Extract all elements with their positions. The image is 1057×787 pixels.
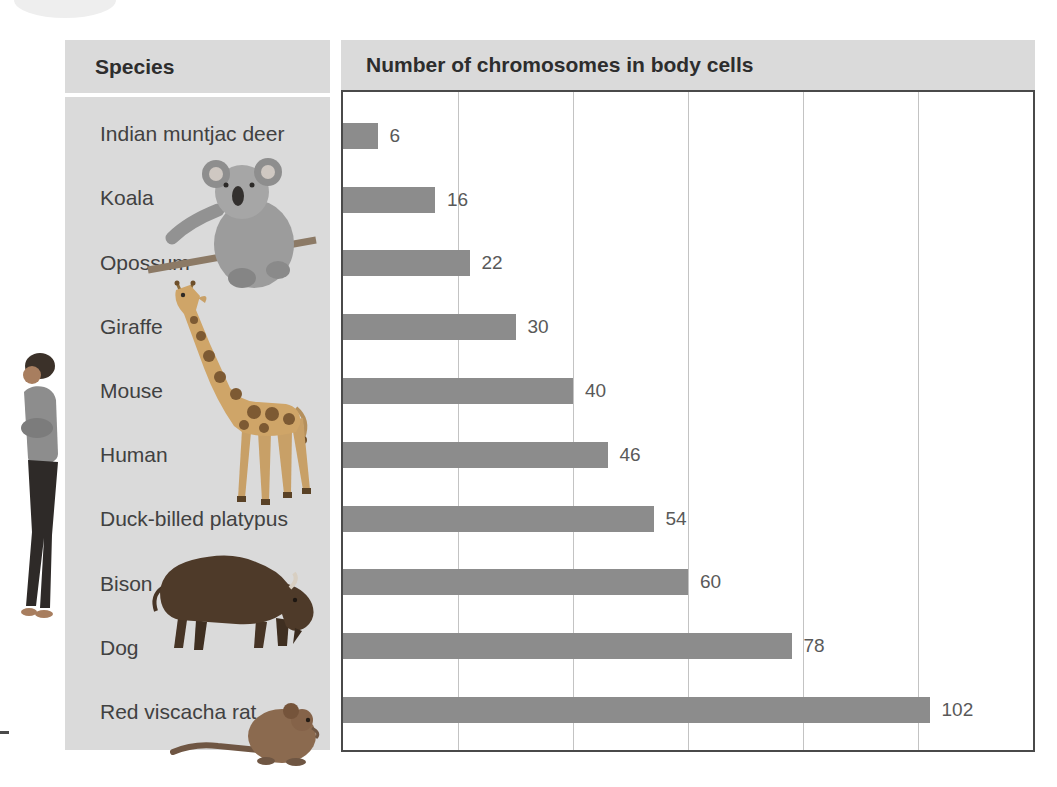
bar-row-koala: 16 [343,168,1033,232]
species-label-human: Human [65,423,330,487]
species-label-dog: Dog [65,616,330,680]
bar-row-indian-muntjac-deer: 6 [343,104,1033,168]
bar-opossum [343,250,470,276]
bar-value-human: 46 [620,444,641,466]
bar-bison [343,569,688,595]
species-label-mouse: Mouse [65,359,330,423]
bar-row-red-viscacha-rat: 102 [343,678,1033,742]
chart-title: Number of chromosomes in body cells [341,40,1035,90]
bar-row-giraffe: 30 [343,295,1033,359]
species-column: Species Indian muntjac deerKoalaOpossumG… [65,40,330,750]
bar-dog [343,633,792,659]
bar-row-opossum: 22 [343,232,1033,296]
species-label-opossum: Opossum [65,230,330,294]
bar-indian-muntjac-deer [343,123,378,149]
chart-column: Number of chromosomes in body cells 6162… [341,40,1035,752]
bar-rows: 61622304046546078102 [343,104,1033,742]
species-label-indian-muntjac-deer: Indian muntjac deer [65,102,330,166]
bar-human [343,442,608,468]
figure-page: Species Indian muntjac deerKoalaOpossumG… [0,0,1057,787]
bar-value-bison: 60 [700,571,721,593]
bar-row-dog: 78 [343,614,1033,678]
species-label-duck-billed-platypus: Duck-billed platypus [65,487,330,551]
bar-value-dog: 78 [804,635,825,657]
bar-mouse [343,378,573,404]
page-corner-decoration [14,0,116,18]
bar-row-bison: 60 [343,551,1033,615]
species-label-bison: Bison [65,551,330,615]
species-header: Species [65,40,330,93]
bar-value-mouse: 40 [585,380,606,402]
species-label-koala: Koala [65,166,330,230]
bar-value-giraffe: 30 [528,316,549,338]
bar-red-viscacha-rat [343,697,930,723]
bar-value-red-viscacha-rat: 102 [942,699,974,721]
bar-row-mouse: 40 [343,359,1033,423]
plot-area: 61622304046546078102 [341,90,1035,752]
bar-value-duck-billed-platypus: 54 [666,508,687,530]
bar-value-koala: 16 [447,189,468,211]
standing-woman-photo [6,350,72,634]
page-margin-dash [0,731,9,734]
bar-row-duck-billed-platypus: 54 [343,487,1033,551]
species-rows: Indian muntjac deerKoalaOpossumGiraffeMo… [65,102,330,744]
bar-koala [343,187,435,213]
header-separator [65,93,330,97]
bar-row-human: 46 [343,423,1033,487]
bar-giraffe [343,314,516,340]
bar-value-indian-muntjac-deer: 6 [390,125,401,147]
species-label-giraffe: Giraffe [65,295,330,359]
bar-duck-billed-platypus [343,506,654,532]
species-label-red-viscacha-rat: Red viscacha rat [65,680,330,744]
bar-value-opossum: 22 [482,252,503,274]
